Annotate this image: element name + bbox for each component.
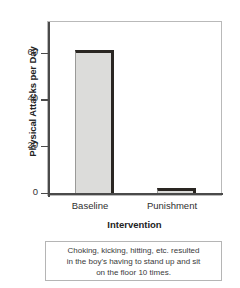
y-tick-2: 40 (41, 99, 48, 101)
y-axis-line (48, 22, 50, 197)
x-axis-line (48, 193, 223, 195)
y-tick-label-0: 0 (33, 186, 38, 197)
caption-line-2: in the boy's having to stand up and sit (67, 256, 201, 267)
plot-area: 0 20 40 60 (47, 21, 222, 196)
caption-line-3: on the floor 10 times. (96, 267, 171, 278)
bar-chart-figure: Physical Attacks per Day 0 20 40 60 Base… (0, 0, 240, 288)
x-tick-label-punishment: Punishment (122, 200, 222, 211)
y-tick-label-3: 60 (27, 46, 38, 57)
y-tick-0: 0 (41, 193, 48, 195)
y-tick-3: 60 (41, 53, 48, 55)
bar-baseline (75, 50, 114, 193)
bar-punishment (157, 188, 196, 193)
y-tick-label-2: 40 (27, 92, 38, 103)
y-tick-label-1: 20 (27, 139, 38, 150)
x-axis-title: Intervention (47, 219, 222, 230)
y-tick-1: 20 (41, 146, 48, 148)
caption-line-1: Choking, kicking, hitting, etc. resulted (67, 245, 199, 256)
caption-box: Choking, kicking, hitting, etc. resulted… (45, 241, 222, 281)
